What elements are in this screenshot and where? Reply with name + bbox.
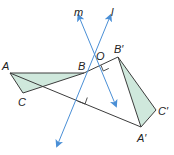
triangle-a-prime-b-prime-c-prime [118,57,156,127]
label-b: B [78,60,85,72]
triangle-abc [10,73,84,93]
line-l [57,19,109,146]
label-a: A [1,60,9,72]
label-o: O [96,50,105,62]
line-m [80,19,116,106]
label-m: m [74,6,83,18]
geometry-diagram: m l A B C O B′ C′ A′ [0,0,174,155]
label-a-prime: A′ [136,132,147,144]
label-c-prime: C′ [158,105,169,117]
label-b-prime: B′ [114,43,124,55]
label-c: C [18,96,26,108]
right-angle-mark-o [101,65,109,71]
right-angle-mark-aa-prime [78,98,88,105]
label-l: l [111,6,114,18]
